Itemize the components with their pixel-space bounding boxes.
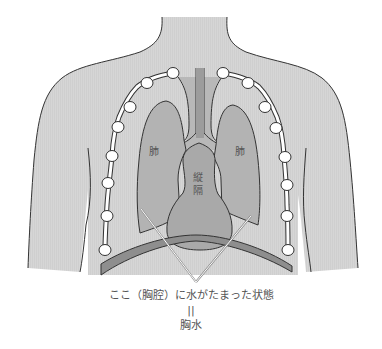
mediastinum-label-2: 隔: [193, 182, 203, 197]
right-lung-label: 肺: [235, 143, 245, 158]
caption-equals: ||: [0, 303, 382, 318]
caption-line-2: 胸水: [0, 318, 382, 333]
caption-line-1: ここ（胸腔）に水がたまった状態: [0, 288, 382, 303]
left-lung-label: 肺: [149, 143, 159, 158]
caption: ここ（胸腔）に水がたまった状態 || 胸水: [0, 288, 382, 333]
